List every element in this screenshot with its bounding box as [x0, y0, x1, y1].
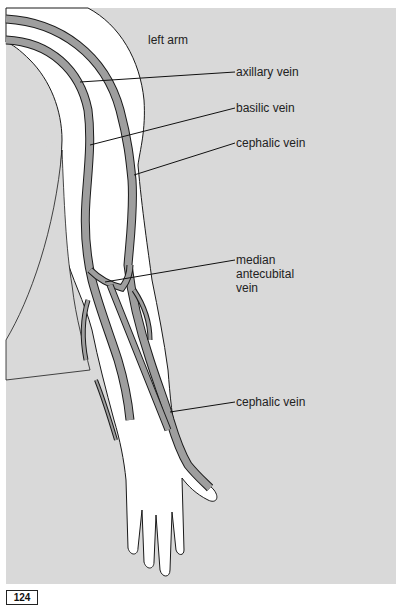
- label-median-antecubital-vein: median antecubital vein: [236, 253, 294, 295]
- label-line-2: antecubital: [236, 267, 294, 281]
- label-cephalic-vein-lower: cephalic vein: [236, 395, 305, 409]
- label-basilic-vein: basilic vein: [236, 101, 295, 115]
- label-axillary-vein: axillary vein: [236, 65, 299, 79]
- arm-illustration: [0, 0, 402, 606]
- label-line-1: median: [236, 253, 294, 267]
- title-left-arm: left arm: [148, 33, 188, 47]
- page-number: 124: [6, 590, 38, 605]
- label-line-3: vein: [236, 281, 294, 295]
- label-cephalic-vein-upper: cephalic vein: [236, 136, 305, 150]
